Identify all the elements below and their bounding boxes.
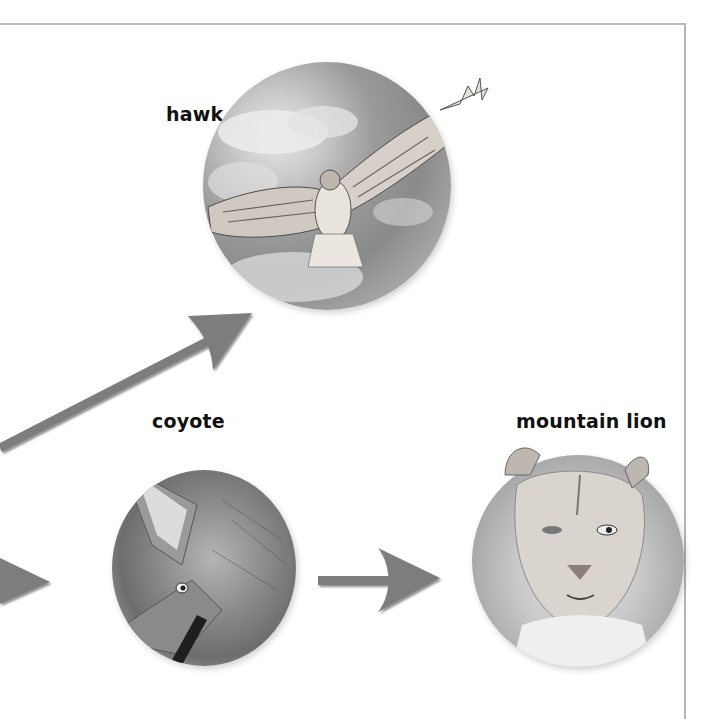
arrow-to-mountain-lion: [318, 548, 440, 612]
food-chain-arrows: [0, 0, 724, 719]
arrow-to-coyote: [0, 558, 50, 604]
arrow-to-hawk: [0, 313, 252, 452]
